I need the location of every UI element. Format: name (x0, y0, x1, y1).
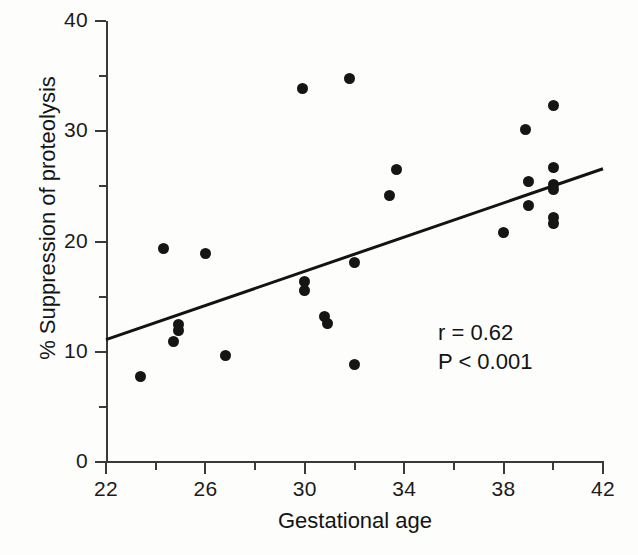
y-tick-minor (99, 185, 106, 187)
data-point (135, 371, 146, 382)
y-tick-label: 0 (0, 449, 88, 473)
pvalue-label: P < 0.001 (438, 347, 532, 376)
y-tick-major (95, 130, 106, 132)
correlation-label: r = 0.62 (438, 318, 532, 347)
data-point (548, 184, 559, 195)
data-point (299, 285, 310, 296)
regression-line (106, 21, 603, 462)
y-tick-minor (99, 296, 106, 298)
x-tick-major (602, 463, 604, 474)
x-tick-minor (453, 463, 455, 470)
y-tick-major (95, 20, 106, 22)
x-axis-title: Gestational age (106, 508, 604, 534)
y-tick-minor (99, 406, 106, 408)
data-point (220, 350, 231, 361)
data-point (349, 257, 360, 268)
x-tick-major (204, 463, 206, 474)
scatter-plot-figure: 010203040 222630343842 % Suppression of … (0, 0, 638, 555)
data-point (384, 190, 395, 201)
y-tick-minor (99, 75, 106, 77)
data-point (200, 248, 211, 259)
data-point (173, 325, 184, 336)
x-tick-minor (552, 463, 554, 470)
x-tick-label: 22 (76, 477, 136, 501)
data-point (523, 200, 534, 211)
data-point (548, 162, 559, 173)
y-axis-title: % Suppression of proteolysis (35, 18, 61, 418)
statistics-annotation: r = 0.62 P < 0.001 (438, 318, 532, 376)
x-tick-major (403, 463, 405, 474)
x-tick-major (304, 463, 306, 474)
x-tick-major (503, 463, 505, 474)
x-tick-label: 42 (573, 477, 633, 501)
data-point (168, 336, 179, 347)
x-tick-label: 34 (374, 477, 434, 501)
plot-area (106, 21, 603, 462)
x-tick-label: 38 (474, 477, 534, 501)
x-tick-major (105, 463, 107, 474)
data-point (297, 83, 308, 94)
data-point (520, 124, 531, 135)
x-tick-minor (254, 463, 256, 470)
x-tick-minor (354, 463, 356, 470)
x-tick-minor (155, 463, 157, 470)
data-point (322, 318, 333, 329)
x-tick-label: 30 (275, 477, 335, 501)
x-tick-label: 26 (175, 477, 235, 501)
data-point (158, 243, 169, 254)
y-tick-major (95, 351, 106, 353)
data-point (344, 73, 355, 84)
y-tick-major (95, 241, 106, 243)
